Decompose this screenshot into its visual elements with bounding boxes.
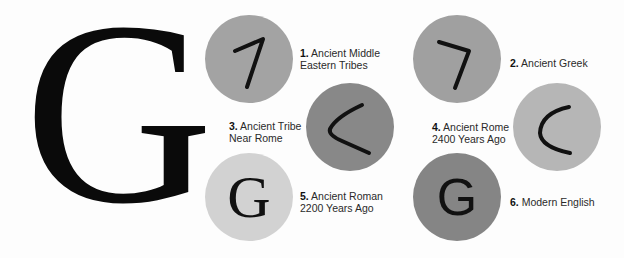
stage-1-label: 1. Ancient Middle Eastern Tribes [300,47,380,71]
seven-glyph-icon [205,15,293,103]
stage-3-circle [306,83,394,171]
stage-4-label: 4. Ancient Rome 2400 Years Ago [432,121,509,145]
serif-g-glyph: G [205,153,293,241]
sans-g-glyph: G [413,153,501,241]
less-than-glyph-icon [306,83,394,171]
c-glyph-icon [513,83,601,171]
stage-1-circle [205,15,293,103]
stage-6-label: 6. Modern English [510,196,595,208]
stage-5-circle: G [205,153,293,241]
stage-6-circle: G [413,153,501,241]
stage-3-label: 3. Ancient Tribe Near Rome [229,120,301,144]
seven-glyph-icon [413,15,501,103]
large-letter-g: G [24,8,194,218]
stage-2-label: 2. Ancient Greek [510,57,588,69]
stage-2-circle [413,15,501,103]
stage-4-circle [513,83,601,171]
stage-5-label: 5. Ancient Roman 2200 Years Ago [300,190,383,214]
